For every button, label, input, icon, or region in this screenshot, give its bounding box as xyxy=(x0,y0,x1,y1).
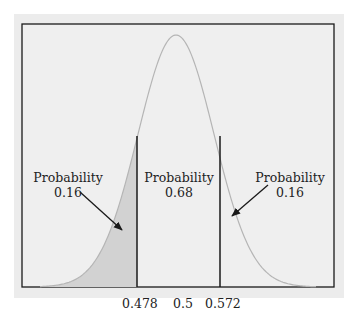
annotation-center-title: Probability xyxy=(142,170,216,185)
annotation-right-title: Probability xyxy=(250,170,330,185)
plot-frame xyxy=(22,24,334,287)
tick-label-0572: 0.572 xyxy=(205,296,241,311)
annotation-left: Probability 0.16 xyxy=(28,170,108,200)
annotation-right: Probability 0.16 xyxy=(250,170,330,200)
annotation-left-value: 0.16 xyxy=(28,185,108,200)
annotation-center-value: 0.68 xyxy=(142,185,216,200)
tick-label-0478: 0.478 xyxy=(122,296,158,311)
annotation-left-title: Probability xyxy=(28,170,108,185)
annotation-right-value: 0.16 xyxy=(250,185,330,200)
normal-curve-chart xyxy=(0,0,351,324)
tick-label-05: 0.5 xyxy=(173,296,193,311)
annotation-center: Probability 0.68 xyxy=(142,170,216,200)
